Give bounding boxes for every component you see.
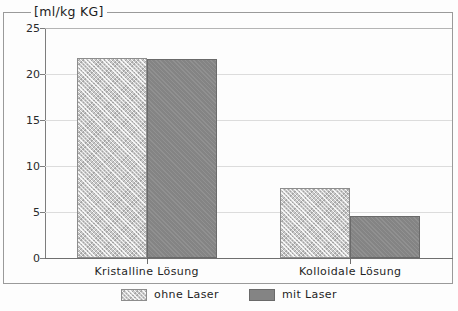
x-axis-category-label: Kolloidale Lösung	[299, 265, 401, 278]
chart-legend: ohne Laser mit Laser	[0, 288, 458, 301]
y-axis-tick-labels: 0510152025	[0, 28, 40, 259]
y-axis-tick-label: 10	[6, 160, 40, 173]
y-axis-tick	[40, 166, 45, 167]
bar	[350, 216, 420, 258]
plot-area	[45, 28, 452, 258]
legend-label-ohne-laser: ohne Laser	[154, 288, 219, 301]
y-axis-tick	[40, 258, 45, 259]
legend-swatch-icon-mit-laser	[249, 289, 275, 301]
legend-label-mit-laser: mit Laser	[282, 288, 337, 301]
legend-item-mit-laser[interactable]: mit Laser	[249, 288, 337, 301]
bar	[280, 188, 350, 258]
y-axis-tick	[40, 74, 45, 75]
legend-swatch-icon-ohne-laser	[121, 289, 147, 301]
chart-figure: [ml/kg KG] 0510152025 Kristalline Lösung…	[0, 0, 458, 311]
x-axis-category-label: Kristalline Lösung	[94, 265, 199, 278]
y-axis-tick-label: 0	[6, 252, 40, 265]
y-axis-tick	[40, 120, 45, 121]
y-axis-tick-label: 15	[6, 114, 40, 127]
x-axis-tick	[350, 258, 351, 264]
x-axis-tick	[147, 258, 148, 264]
y-axis-tick	[40, 28, 45, 29]
gridline	[45, 28, 452, 29]
x-axis-line	[45, 258, 453, 259]
y-axis-tick-label: 5	[6, 206, 40, 219]
y-axis-tick-label: 20	[6, 68, 40, 81]
y-axis-tick-label: 25	[6, 22, 40, 35]
y-axis-tick	[40, 212, 45, 213]
chart-title: [ml/kg KG]	[31, 4, 107, 19]
legend-item-ohne-laser[interactable]: ohne Laser	[121, 288, 219, 301]
bar	[147, 59, 217, 258]
bar	[77, 58, 147, 258]
